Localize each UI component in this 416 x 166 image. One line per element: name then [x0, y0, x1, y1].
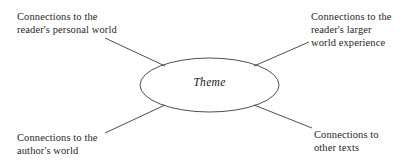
- branch-label-top-left: Connections to the reader's personal wor…: [17, 10, 147, 36]
- connector-line-bottom-left: [105, 105, 165, 133]
- theme-center-label: Theme: [140, 76, 279, 88]
- connector-line-top-left: [105, 38, 165, 66]
- connector-line-bottom-right: [254, 105, 312, 128]
- theme-concept-web-diagram: Theme Connections to the reader's person…: [0, 0, 416, 166]
- connector-line-top-right: [254, 42, 309, 66]
- branch-label-bottom-left: Connections to the author's world: [17, 131, 147, 157]
- branch-label-bottom-right: Connections to other texts: [314, 128, 414, 154]
- branch-label-top-right: Connections to the reader's larger world…: [311, 10, 415, 50]
